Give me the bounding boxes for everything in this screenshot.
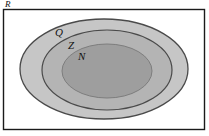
nested-sets-diagram: R Q Z N <box>0 0 209 136</box>
set-label-n: N <box>77 50 86 62</box>
set-label-q: Q <box>55 26 63 38</box>
universe-label-r: R <box>4 0 11 9</box>
set-n-ellipse <box>62 44 152 98</box>
set-label-z: Z <box>68 39 75 51</box>
set-diagram-canvas: R Q Z N <box>0 0 209 136</box>
